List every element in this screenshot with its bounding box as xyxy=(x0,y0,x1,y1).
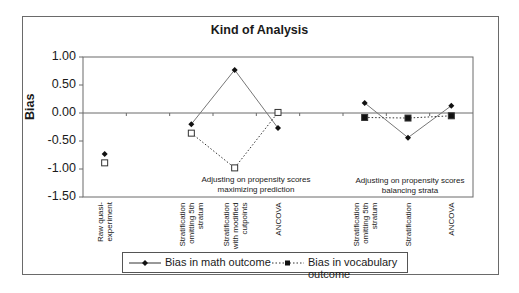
vocab-point xyxy=(102,160,108,166)
vocab-point xyxy=(362,114,368,120)
legend-item-math: Bias in math outcome xyxy=(165,256,271,268)
annotation-maximizing-prediction: Adjusting on propensity scores maximizin… xyxy=(166,175,346,195)
series-line xyxy=(191,112,278,167)
legend: Bias in math outcome Bias in vocabulary … xyxy=(122,252,408,273)
annotation-line: Adjusting on propensity scores xyxy=(166,175,346,185)
math-point xyxy=(102,151,108,157)
series-line xyxy=(191,70,278,128)
annotation-balancing-strata: Adjusting on propensity scores balancing… xyxy=(320,176,500,196)
vocab-point xyxy=(448,113,454,119)
vocab-point xyxy=(188,130,194,136)
vocab-point xyxy=(405,115,411,121)
annotation-line: maximizing prediction xyxy=(166,185,346,195)
legend-item-vocab: Bias in vocabulary outcome xyxy=(308,256,407,280)
vocab-point xyxy=(275,109,281,115)
vocab-point xyxy=(232,165,238,171)
plot-area xyxy=(0,0,519,293)
annotation-line: balancing strata xyxy=(320,186,500,196)
annotation-line: Adjusting on propensity scores xyxy=(320,176,500,186)
